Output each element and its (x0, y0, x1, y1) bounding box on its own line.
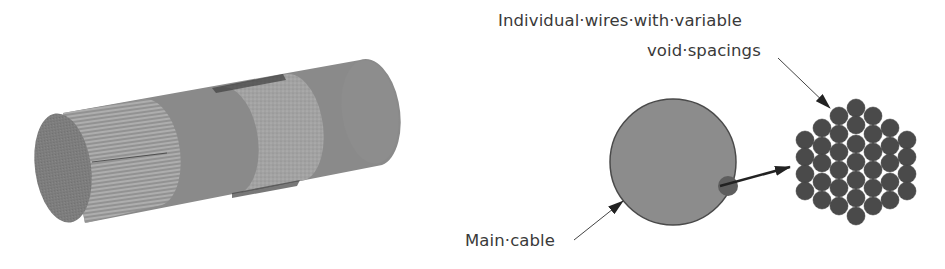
wire-strand (813, 119, 831, 137)
wire-strand (898, 165, 916, 183)
wire-strand (813, 173, 831, 191)
wire-strand (881, 137, 899, 155)
wire-strand (864, 161, 882, 179)
wire-strand (864, 107, 882, 125)
wire-strand (898, 131, 916, 149)
wire-strand (847, 207, 865, 225)
wire-strand (847, 171, 865, 189)
wire-strand (864, 125, 882, 143)
wire-strand (847, 116, 865, 134)
wire-strand (864, 143, 882, 161)
wires-arrow (778, 58, 830, 108)
wire-strand (881, 154, 899, 172)
wire-strand (847, 153, 865, 171)
wire-strand (830, 197, 848, 215)
wire-strand (847, 135, 865, 153)
wire-strand (898, 148, 916, 166)
wire-strand (864, 179, 882, 197)
label-individual-wires: Individual·wires·with·variable (498, 11, 742, 30)
main-cable-cross-section (610, 99, 738, 225)
wire-strand (830, 107, 848, 125)
wire-strand (796, 131, 814, 149)
wire-strand (813, 191, 831, 209)
wire-strand (813, 154, 831, 172)
cable-3d-model (28, 57, 405, 227)
label-void-spacings: void·spacings (647, 41, 761, 60)
wire-strand (830, 143, 848, 161)
label-main-cable: Main·cable (465, 231, 555, 250)
wire-strand (796, 165, 814, 183)
figure: Individual·wires·with·variable void·spac… (0, 0, 945, 269)
wire-strand (830, 161, 848, 179)
individual-wires-bundle (796, 99, 916, 225)
wire-strand (864, 197, 882, 215)
wire-strand (796, 182, 814, 200)
wire-strand (830, 125, 848, 143)
wire-strand (796, 148, 814, 166)
wire-strand (898, 182, 916, 200)
main-cable-circle (610, 99, 736, 225)
wire-strand (881, 191, 899, 209)
wire-strand (881, 173, 899, 191)
wire-strand (847, 189, 865, 207)
figure-canvas (0, 0, 945, 269)
main-cable-arrow (574, 201, 623, 240)
wire-strand (830, 179, 848, 197)
wire-strand (813, 137, 831, 155)
wire-strand (847, 99, 865, 117)
wire-strand (881, 119, 899, 137)
